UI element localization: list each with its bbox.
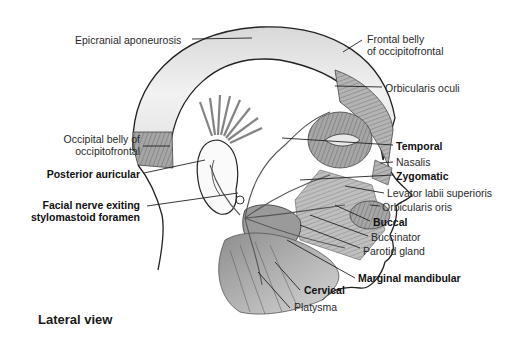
label-orbicularis-oculi: Orbicularis oculi	[385, 82, 460, 94]
auricular-muscles	[200, 95, 262, 143]
label-frontal-belly-line1: Frontal belly	[367, 33, 424, 45]
label-frontal-belly-line2: of occipitofrontal	[367, 45, 443, 57]
label-parotid-gland: Parotid gland	[363, 245, 425, 257]
label-facial-nerve-line2: stylomastoid foramen	[0, 211, 140, 223]
head-outline	[138, 165, 163, 270]
ear-shape	[197, 140, 238, 214]
label-marginal-mandibular-branch: Marginal mandibular	[358, 272, 461, 284]
label-occipital-belly-line1: Occipital belly of	[30, 133, 140, 145]
label-platysma: Platysma	[294, 301, 337, 313]
label-posterior-auricular-branch: Posterior auricular	[20, 168, 140, 180]
label-orbicularis-oris: Orbicularis oris	[382, 201, 452, 213]
figure-caption: Lateral view	[38, 312, 112, 327]
label-nasalis: Nasalis	[396, 156, 430, 168]
label-temporal-branch: Temporal	[396, 140, 442, 152]
label-zygomatic-branch: Zygomatic	[396, 170, 449, 182]
stylomastoid-foramen-marker	[236, 196, 244, 204]
label-occipital-belly-line2: occipitofrontal	[30, 145, 140, 157]
nasalis-shape	[372, 160, 392, 185]
label-cervical-branch: Cervical	[304, 284, 345, 296]
label-buccinator: Buccinator	[371, 231, 421, 243]
label-levator-labii-superioris: Levator labii superioris	[387, 187, 492, 199]
anatomy-figure: Epicranial aponeurosis Frontal belly of …	[0, 0, 515, 344]
label-buccal-branch: Buccal	[373, 216, 407, 228]
label-facial-nerve-line1: Facial nerve exiting	[0, 199, 140, 211]
label-epicranial-aponeurosis: Epicranial aponeurosis	[75, 34, 181, 46]
